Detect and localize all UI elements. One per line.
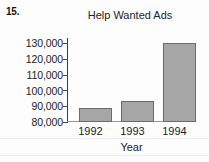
chart-title: Help Wanted Ads bbox=[60, 9, 200, 21]
x-axis-title: Year bbox=[67, 141, 196, 153]
problem-number: 15. bbox=[6, 6, 19, 17]
bar-1992 bbox=[79, 108, 112, 122]
bar-1994 bbox=[163, 43, 196, 122]
y-tick-mark bbox=[63, 106, 68, 107]
y-tick-mark bbox=[63, 43, 68, 44]
figure-panel: 15. Help Wanted Ads 130,000 120,000 110,… bbox=[0, 0, 209, 162]
y-tick-label: 80,000 bbox=[31, 116, 63, 128]
y-tick-label: 100,000 bbox=[26, 85, 63, 97]
y-tick-label: 120,000 bbox=[26, 53, 63, 65]
y-tick-mark bbox=[63, 59, 68, 60]
x-tick-label-1994: 1994 bbox=[146, 125, 203, 137]
y-axis-line bbox=[67, 38, 68, 122]
y-tick-label: 90,000 bbox=[31, 100, 63, 112]
plot-area bbox=[67, 38, 196, 122]
y-tick-mark bbox=[63, 122, 68, 123]
y-tick-mark bbox=[63, 75, 68, 76]
bar-1993 bbox=[121, 101, 154, 122]
y-axis-tick-labels: 130,000 120,000 110,000 100,000 90,000 8… bbox=[12, 38, 63, 122]
page-rule bbox=[0, 155, 209, 156]
page-rule bbox=[0, 138, 209, 139]
y-tick-mark bbox=[63, 90, 68, 91]
y-tick-label: 130,000 bbox=[26, 37, 63, 49]
y-tick-label: 110,000 bbox=[27, 69, 63, 81]
